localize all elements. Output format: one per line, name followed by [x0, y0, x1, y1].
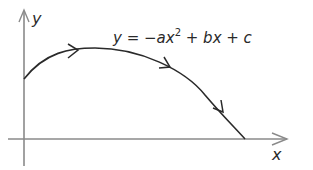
- y-axis-label: y: [31, 9, 42, 28]
- equation-lhs: y = −ax: [112, 29, 175, 47]
- y-axis: [19, 10, 29, 166]
- parabola-diagram: y x y = −ax2 + bx + c: [0, 0, 313, 170]
- x-axis: [8, 133, 287, 145]
- equation-rhs: + bx + c: [181, 29, 253, 47]
- parabola-curve: [24, 48, 245, 139]
- equation-label: y = −ax2 + bx + c: [112, 27, 253, 47]
- x-axis-label: x: [271, 145, 282, 164]
